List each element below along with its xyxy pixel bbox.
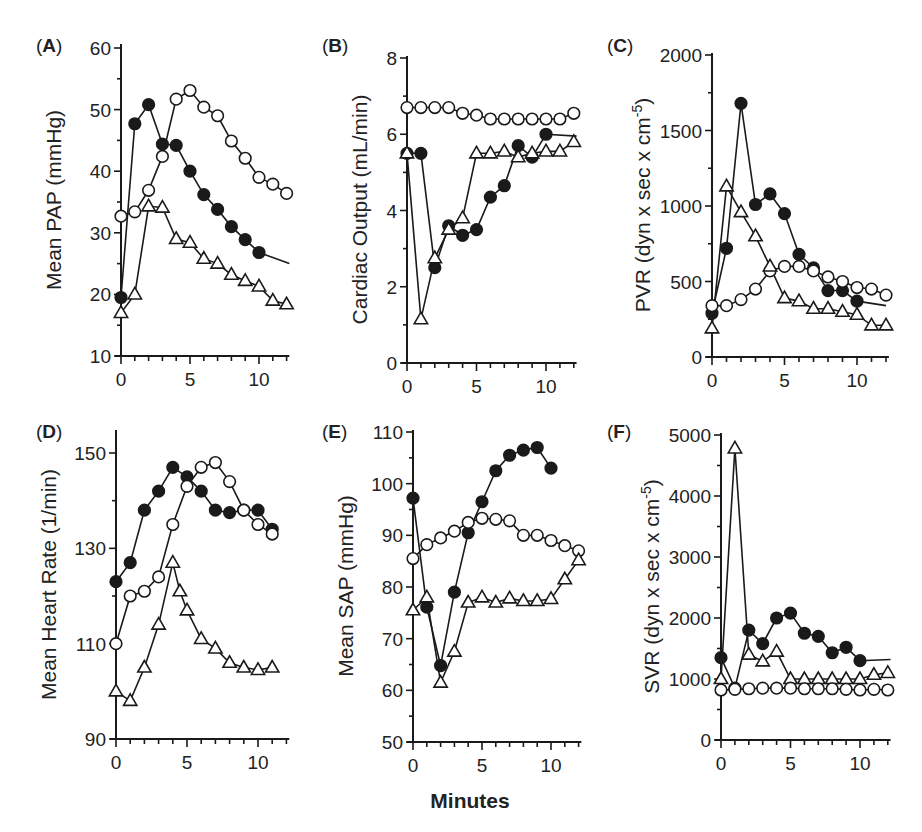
- data-point-open-circle: [435, 532, 447, 544]
- data-point-open-circle: [139, 585, 151, 597]
- data-point-open-circle: [429, 102, 441, 114]
- data-point-open-circle: [757, 682, 769, 694]
- x-tick-label: 0: [402, 376, 413, 397]
- data-point-open-triangle: [770, 645, 783, 657]
- data-point-open-circle: [170, 93, 182, 105]
- data-point-filled-circle: [210, 504, 222, 516]
- data-point-open-triangle: [881, 666, 894, 678]
- data-point-open-circle: [504, 515, 516, 527]
- y-tick-label: 1500: [660, 121, 702, 142]
- data-point-open-triangle: [166, 556, 179, 568]
- data-point-filled-circle: [793, 249, 805, 261]
- data-point-open-circle: [808, 265, 820, 277]
- data-point-open-circle: [826, 683, 838, 695]
- data-point-open-circle: [449, 525, 461, 537]
- series-line-filled-circle: [413, 448, 551, 666]
- data-point-open-triangle: [456, 211, 469, 223]
- data-point-open-circle: [706, 300, 718, 312]
- data-point-open-triangle: [749, 229, 762, 241]
- data-point-open-circle: [531, 530, 543, 542]
- data-point-open-circle: [195, 462, 207, 474]
- data-point-filled-circle: [471, 224, 483, 236]
- data-point-open-circle: [540, 113, 552, 125]
- data-point-filled-circle: [813, 631, 825, 643]
- data-point-filled-circle: [854, 655, 866, 667]
- y-tick-label: 90: [85, 729, 106, 750]
- data-point-open-circle: [822, 271, 834, 283]
- data-point-open-circle: [157, 151, 169, 163]
- data-point-filled-circle: [224, 507, 236, 519]
- data-point-filled-circle: [504, 449, 516, 461]
- data-point-open-circle: [490, 514, 502, 526]
- figure-canvas: 1020304050600510Mean PAP (mmHg)(A)024680…: [0, 0, 922, 832]
- data-point-open-circle: [868, 684, 880, 696]
- panel-letter: (E): [322, 421, 347, 442]
- data-point-open-circle: [239, 152, 251, 164]
- data-point-open-triangle: [434, 676, 447, 688]
- data-point-open-circle: [267, 178, 279, 190]
- data-point-filled-circle: [184, 165, 196, 177]
- data-point-open-triangle: [798, 672, 811, 684]
- data-point-open-circle: [880, 289, 892, 301]
- data-point-filled-circle: [153, 485, 165, 497]
- x-tick-label: 5: [779, 370, 790, 391]
- data-point-filled-circle: [195, 485, 207, 497]
- data-point-filled-circle: [429, 262, 441, 274]
- data-point-open-circle: [281, 188, 293, 200]
- data-point-filled-circle: [170, 140, 182, 152]
- data-point-filled-circle: [771, 612, 783, 624]
- data-point-filled-circle: [449, 586, 461, 598]
- x-tick-label: 10: [846, 370, 867, 391]
- data-point-filled-circle: [540, 128, 552, 140]
- data-point-filled-circle: [129, 118, 141, 130]
- data-point-filled-circle: [499, 180, 511, 192]
- data-point-open-circle: [421, 539, 433, 551]
- data-point-open-triangle: [195, 632, 208, 644]
- data-point-open-circle: [153, 571, 165, 583]
- y-tick-label: 50: [382, 732, 403, 753]
- data-point-open-triangle: [498, 144, 511, 156]
- data-point-open-triangle: [763, 259, 776, 271]
- data-point-filled-circle: [851, 295, 863, 307]
- series-line-open-triangle: [116, 563, 272, 701]
- data-point-open-triangle: [705, 321, 718, 333]
- data-point-open-circle: [210, 457, 222, 469]
- y-tick-label: 130: [74, 538, 106, 559]
- data-point-filled-circle: [826, 647, 838, 659]
- y-tick-label: 60: [382, 680, 403, 701]
- data-point-filled-circle: [735, 98, 747, 110]
- data-point-filled-circle: [750, 199, 762, 211]
- panel-c: 05001000150020000510PVR (dyn x sec x cm-…: [607, 35, 893, 391]
- data-point-open-triangle: [266, 661, 279, 673]
- data-point-open-circle: [840, 684, 852, 696]
- data-point-filled-circle: [785, 607, 797, 619]
- data-point-open-triangle: [553, 144, 566, 156]
- series-line-open-triangle: [407, 142, 574, 319]
- data-point-open-circle: [813, 683, 825, 695]
- data-point-open-circle: [184, 85, 196, 97]
- panel-a: 1020304050600510Mean PAP (mmHg)(A): [36, 35, 293, 390]
- data-point-open-circle: [415, 102, 427, 114]
- data-point-open-triangle: [173, 584, 186, 596]
- y-tick-label: 4000: [669, 486, 711, 507]
- data-point-open-triangle: [152, 618, 165, 630]
- data-point-filled-circle: [518, 444, 530, 456]
- panel-letter: (F): [607, 421, 631, 442]
- panel-f: 0100020003000400050000510SVR (dyn x sec …: [607, 421, 894, 774]
- y-axis-label: PVR (dyn x sec x cm-5): [629, 98, 654, 312]
- multi-panel-figure: 1020304050600510Mean PAP (mmHg)(A)024680…: [0, 0, 922, 832]
- data-point-open-circle: [407, 553, 419, 565]
- data-point-open-circle: [443, 102, 455, 114]
- data-point-filled-circle: [115, 292, 127, 304]
- y-tick-label: 4: [386, 201, 397, 222]
- data-point-open-circle: [882, 684, 894, 696]
- data-point-filled-circle: [476, 496, 488, 508]
- y-tick-label: 500: [670, 272, 702, 293]
- data-point-filled-circle: [545, 462, 557, 474]
- data-point-open-triangle: [156, 201, 169, 213]
- data-point-filled-circle: [743, 624, 755, 636]
- data-point-open-triangle: [567, 135, 580, 147]
- y-tick-label: 110: [76, 634, 106, 655]
- y-tick-label: 50: [90, 100, 111, 121]
- x-tick-label: 0: [716, 753, 727, 774]
